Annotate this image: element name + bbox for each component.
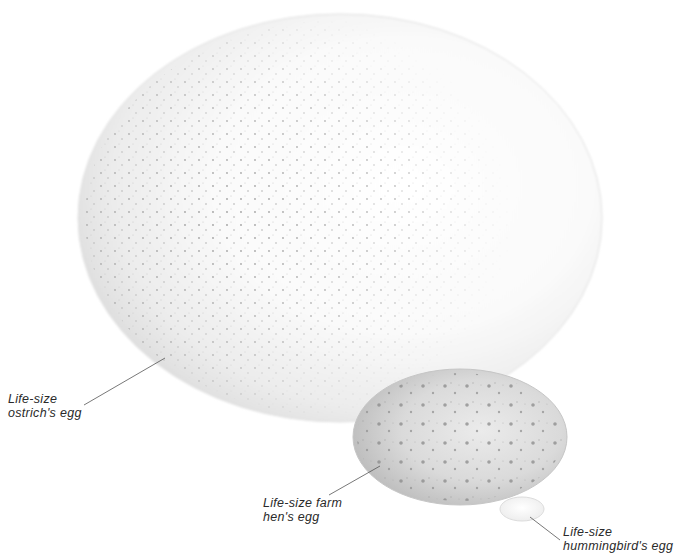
ostrich-leader-line xyxy=(84,358,165,405)
ostrich-label-line-1: Life-size xyxy=(8,392,82,406)
hen-label-line-2: hen's egg xyxy=(263,510,342,524)
ostrich-label-line-2: ostrich's egg xyxy=(8,406,82,420)
ostrich-egg-label: Life-size ostrich's egg xyxy=(8,392,82,420)
ostrich-egg xyxy=(78,14,602,422)
hummingbird-leader-line xyxy=(530,517,560,540)
hen-egg xyxy=(353,369,567,505)
hen-label-line-1: Life-size farm xyxy=(263,496,342,510)
hummingbird-label-line-2: hummingbird's egg xyxy=(563,539,673,553)
egg-size-illustration: Life-size ostrich's egg Life-size farm h… xyxy=(0,0,687,559)
hummingbird-egg xyxy=(500,497,544,521)
hummingbird-label-line-1: Life-size xyxy=(563,525,673,539)
hummingbird-egg-label: Life-size hummingbird's egg xyxy=(563,525,673,553)
hen-leader-line xyxy=(329,466,380,495)
hen-egg-label: Life-size farm hen's egg xyxy=(263,496,342,524)
eggs-artwork xyxy=(0,0,687,559)
